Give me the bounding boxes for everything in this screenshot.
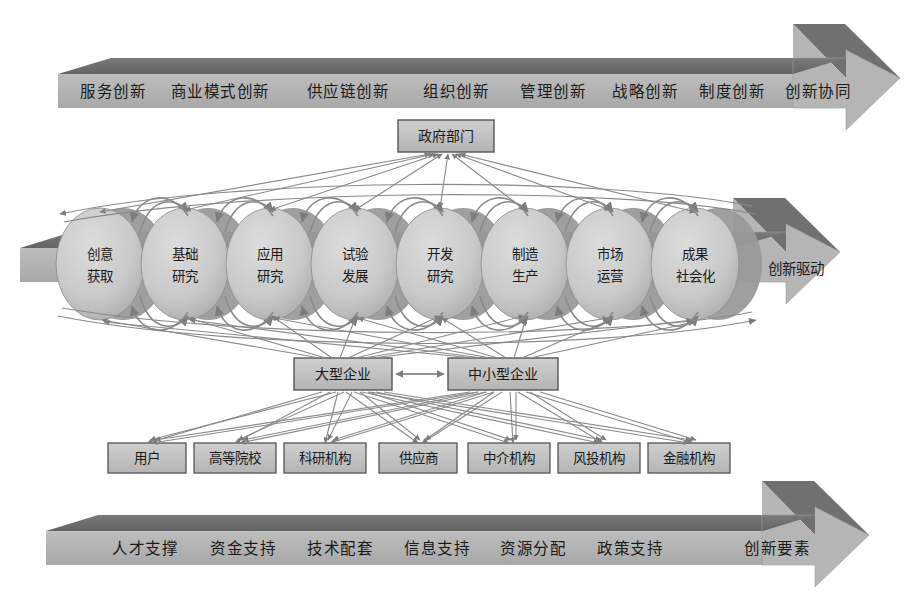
actor-label-4: 中介机构: [483, 450, 535, 466]
middle-band-tag: 创新驱动: [768, 261, 824, 277]
government-node[interactable]: 政府部门: [398, 120, 494, 152]
stage-label-line2-0: 获取: [87, 268, 114, 284]
stage-node[interactable]: 试验 发展: [311, 208, 399, 320]
top-band-arrow: 服务创新 商业模式创新 供应链创新 组织创新 管理创新 战略创新 制度创新 创新…: [58, 24, 900, 130]
actor-node[interactable]: 中介机构: [468, 443, 550, 473]
stage-node[interactable]: 成果 社会化: [651, 208, 739, 320]
top-band-item-0: 服务创新: [80, 83, 146, 101]
top-band-item-5: 战略创新: [612, 83, 678, 101]
stage-label-line1-0: 创意: [87, 246, 113, 262]
bottom-band-arrow: 人才支撑 资金支持 技术配套 信息支持 资源分配 政策支持 创新要素: [46, 481, 869, 587]
government-label: 政府部门: [418, 128, 474, 144]
stage-label-line1-4: 开发: [427, 246, 454, 262]
stage-node[interactable]: 开发 研究: [396, 208, 484, 320]
top-band-item-6: 制度创新: [699, 83, 765, 101]
stage-label-line1-1: 基础: [172, 246, 198, 262]
stage-node[interactable]: 创意 获取: [56, 208, 144, 320]
enterprise-label-0: 大型企业: [315, 366, 371, 382]
stage-label-line2-6: 运营: [597, 268, 623, 284]
top-band-item-7: 创新协同: [785, 83, 851, 101]
actor-to-enterprise-connectors: [147, 392, 696, 443]
stage-label-line2-4: 研究: [427, 268, 453, 284]
actor-label-3: 供应商: [399, 450, 438, 466]
diagram-canvas: 服务创新 商业模式创新 供应链创新 组织创新 管理创新 战略创新 制度创新 创新…: [0, 0, 908, 603]
actor-label-6: 金融机构: [663, 450, 715, 466]
top-band-item-3: 组织创新: [423, 83, 489, 101]
bottom-band-item-0: 人才支撑: [112, 540, 178, 558]
actor-label-5: 风投机构: [573, 450, 625, 466]
stage-node[interactable]: 制造 生产: [481, 208, 569, 320]
actor-label-1: 高等院校: [209, 450, 262, 466]
stage-label-line2-2: 研究: [257, 268, 283, 284]
bottom-band-tag: 创新要素: [744, 540, 810, 558]
stage-label-line2-1: 研究: [172, 268, 198, 284]
actor-label-0: 用户: [134, 450, 160, 466]
value-chain-stages: 创意 获取 基础 研究 应用 研究 试验 发展 开发 研究: [56, 208, 762, 320]
top-band-item-4: 管理创新: [520, 83, 586, 101]
stage-label-line1-5: 制造: [512, 246, 539, 262]
bottom-band-top-facet: [46, 515, 815, 531]
bottom-band-item-4: 资源分配: [500, 540, 566, 558]
bottom-band-item-3: 信息支持: [404, 540, 470, 558]
stage-label-line1-6: 市场: [597, 246, 623, 262]
stage-node[interactable]: 市场 运营: [566, 208, 654, 320]
stage-label-line2-3: 发展: [342, 268, 368, 284]
enterprise-sme-node[interactable]: 中小型企业: [448, 358, 558, 390]
actor-node[interactable]: 供应商: [379, 443, 457, 473]
actor-label-2: 科研机构: [299, 450, 351, 466]
actor-node[interactable]: 高等院校: [194, 443, 276, 473]
bottom-band-item-1: 资金支持: [210, 540, 276, 558]
actor-node[interactable]: 金融机构: [648, 443, 730, 473]
stage-label-line1-3: 试验: [342, 246, 369, 262]
enterprise-large-node[interactable]: 大型企业: [294, 358, 392, 390]
actor-node[interactable]: 风投机构: [558, 443, 640, 473]
top-band-item-2: 供应链创新: [307, 82, 390, 101]
stage-node[interactable]: 基础 研究: [141, 208, 229, 320]
bottom-band-item-5: 政策支持: [597, 540, 663, 558]
top-band-top-facet: [58, 58, 846, 74]
bottom-band-item-2: 技术配套: [307, 540, 373, 558]
stage-node[interactable]: 应用 研究: [226, 208, 314, 320]
top-band-item-1: 商业模式创新: [171, 83, 270, 101]
enterprise-to-chain-connectors: [102, 316, 694, 358]
stage-label-line1-7: 成果: [682, 246, 709, 262]
innovation-ecosystem-diagram: 服务创新 商业模式创新 供应链创新 组织创新 管理创新 战略创新 制度创新 创新…: [0, 0, 908, 603]
stage-label-line2-7: 社会化: [676, 268, 715, 284]
stage-label-line1-2: 应用: [257, 246, 283, 262]
actor-node[interactable]: 科研机构: [284, 443, 366, 473]
enterprise-label-1: 中小型企业: [468, 366, 538, 382]
actor-node[interactable]: 用户: [108, 443, 186, 473]
stage-label-line2-5: 生产: [512, 268, 538, 284]
actor-nodes: 用户 高等院校 科研机构 供应商 中介机构 风投机构: [108, 443, 730, 473]
